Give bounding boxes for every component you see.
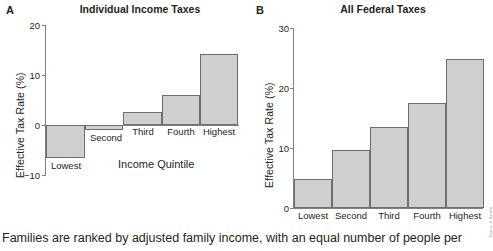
bar-a-fourth [162, 95, 200, 125]
bar-b-highest [446, 59, 484, 208]
panel-a-ticklabel-10: 10 [2, 70, 40, 81]
panel-b-ticklabel-0: 0 [251, 203, 289, 214]
bar-a-third [123, 112, 162, 125]
bar-b-second [332, 150, 370, 208]
bar-b-fourth [408, 103, 446, 208]
catlabel-a-lowest: Lowest [40, 160, 92, 171]
panel-b-plot-area: 30 20 10 0 Lowest Second Third Fourth Hi… [243, 0, 489, 222]
panel-b-x-axis [294, 208, 483, 209]
panel-b-ticklabel-30: 30 [251, 23, 289, 34]
panel-b-tick-10 [290, 148, 294, 149]
panel-b-tick-30 [290, 28, 294, 29]
panel-b-ticklabel-10: 10 [251, 143, 289, 154]
figure-credit: Source: J. Bartlett [489, 207, 493, 238]
bar-a-highest [200, 54, 238, 125]
figure-caption: Families are ranked by adjusted family i… [2, 231, 472, 245]
panel-b-tick-20 [290, 88, 294, 89]
panel-a-tick-20 [42, 25, 46, 26]
panel-a-plot-area: 20 10 0 −10 Lowest Second Third Fourth H… [0, 0, 245, 222]
panel-a-x-axis-label: Income Quintile [118, 158, 194, 170]
panel-a: A Individual Income Taxes Effective Tax … [0, 0, 245, 222]
panel-b-ticklabel-20: 20 [251, 83, 289, 94]
catlabel-a-highest: Highest [193, 126, 245, 137]
panel-a-tick-neg10 [42, 175, 46, 176]
catlabel-b-highest: Highest [439, 210, 491, 221]
panel-b: B All Federal Taxes Effective Tax Rate (… [243, 0, 489, 222]
panel-a-tick-10 [42, 75, 46, 76]
panel-a-ticklabel-neg10: −10 [2, 170, 40, 181]
bar-b-lowest [294, 179, 332, 208]
bar-b-third [370, 127, 408, 208]
panel-a-ticklabel-20: 20 [2, 20, 40, 31]
panel-a-ticklabel-0: 0 [2, 120, 40, 131]
